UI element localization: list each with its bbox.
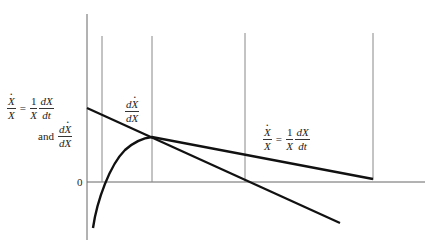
x-symbol: X	[264, 140, 271, 152]
and-text: and	[38, 131, 54, 142]
dx-dot-numerator: dX	[59, 123, 71, 135]
equals-sign: =	[20, 103, 26, 114]
marginal-curve-label: dXdX	[124, 99, 140, 124]
coef-denominator: X	[286, 140, 293, 152]
coef-denominator: X	[30, 109, 37, 121]
coef-numerator: 1	[286, 127, 294, 140]
dx-dot-numerator: dX	[126, 98, 138, 110]
dx-numerator: dX	[39, 96, 53, 109]
equals-sign: =	[276, 134, 282, 145]
average-curve-label: XX = 1X dXdt	[262, 127, 311, 152]
dt-denominator: dt	[42, 109, 51, 121]
y-axis-label-growth-rate: XX = 1X dXdt	[6, 96, 55, 121]
x-symbol: X	[8, 109, 15, 121]
vertical-guides	[102, 33, 373, 182]
x-dot-symbol: X	[264, 127, 271, 138]
origin-label: 0	[77, 176, 83, 188]
dx-numerator: dX	[295, 127, 309, 140]
dt-denominator: dt	[298, 140, 307, 152]
y-axis-label-marginal: and dXdX	[38, 124, 73, 149]
dx-denominator: dX	[59, 137, 71, 149]
coef-numerator: 1	[30, 96, 38, 109]
dx-denominator: dX	[126, 112, 138, 124]
x-dot-symbol: X	[8, 96, 15, 107]
